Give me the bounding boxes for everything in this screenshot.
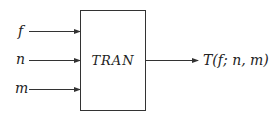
input-label-m: m [15,80,28,96]
output-label: T(f; n, m) [203,52,269,68]
block-diagram: TRAN f n m T(f; n, m) [0,0,279,118]
input-label-n: n [16,51,25,67]
input-label-f: f [17,23,26,39]
block-label: TRAN [91,53,134,68]
